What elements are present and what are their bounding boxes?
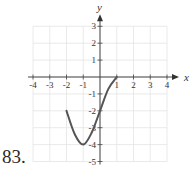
svg-text:-2: -2 [89,106,97,116]
svg-text:2: 2 [92,38,97,48]
svg-text:-4: -4 [89,140,97,150]
svg-text:1: 1 [92,55,97,65]
svg-text:y: y [96,1,102,13]
svg-text:-3: -3 [46,80,54,90]
svg-text:-1: -1 [80,80,88,90]
svg-text:-1: -1 [89,89,97,99]
svg-text:3: 3 [148,80,153,90]
svg-text:1: 1 [115,80,120,90]
svg-text:2: 2 [131,80,136,90]
function-graph: xy -4-3-2-11234321-1-2-3-4-5 [0,0,194,176]
svg-text:3: 3 [92,21,97,31]
svg-text:-5: -5 [89,157,97,167]
svg-text:-2: -2 [63,80,71,90]
svg-text:x: x [183,71,189,83]
svg-text:-4: -4 [29,80,37,90]
svg-text:4: 4 [165,80,170,90]
